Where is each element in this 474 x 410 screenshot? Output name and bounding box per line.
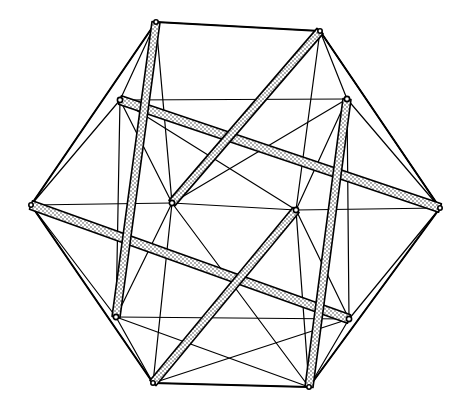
node-mid-right-node bbox=[293, 207, 298, 212]
polyhedron-diagram bbox=[0, 0, 474, 410]
node-lower-left-node bbox=[113, 314, 118, 319]
vertex-left bbox=[29, 203, 33, 207]
vertex-right bbox=[438, 206, 442, 210]
node-upper-right-node bbox=[344, 96, 349, 101]
vertex-bottom-right bbox=[307, 385, 311, 389]
vertex-top-left bbox=[154, 20, 158, 24]
geometric-figure-canvas bbox=[0, 0, 474, 410]
node-lower-right-node bbox=[346, 316, 351, 321]
vertex-bottom-left bbox=[151, 381, 155, 385]
node-upper-left-node bbox=[117, 97, 122, 102]
vertex-top-right bbox=[318, 29, 322, 33]
node-mid-left-node bbox=[169, 200, 174, 205]
